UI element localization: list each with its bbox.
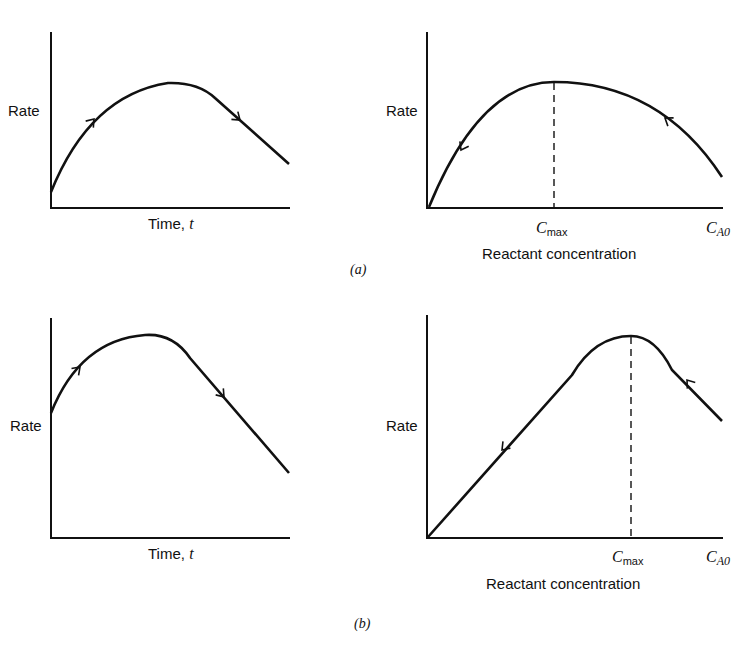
cmax-tick-label: Cmax <box>536 219 568 238</box>
panel-label-a: (a) <box>350 262 367 278</box>
rate-curve <box>51 83 289 192</box>
x-label: Time, t <box>148 215 194 232</box>
chart-b-left: Rate Time, t <box>10 318 290 562</box>
rate-curve <box>429 82 722 207</box>
chart-a-right: Rate Cmax CA0 Reactant concentration <box>386 32 730 262</box>
y-label: Rate <box>386 102 418 119</box>
ca0-tick-label: CA0 <box>706 548 730 568</box>
figure: Rate Time, t Rate Cmax CA0 Reactant conc… <box>0 0 752 651</box>
x-label: Reactant concentration <box>486 575 640 592</box>
y-label: Rate <box>386 417 418 434</box>
ca0-tick-label: CA0 <box>706 219 730 239</box>
rate-curve <box>428 336 722 537</box>
y-label: Rate <box>10 417 42 434</box>
x-label: Reactant concentration <box>482 245 636 262</box>
panel-label-b: (b) <box>354 616 371 632</box>
cmax-tick-label: Cmax <box>612 548 644 567</box>
rate-curve <box>51 335 289 473</box>
chart-b-right: Rate Cmax CA0 Reactant concentration <box>386 315 730 592</box>
chart-a-left: Rate Time, t <box>8 32 290 232</box>
x-label: Time, t <box>148 545 194 562</box>
y-label: Rate <box>8 102 40 119</box>
